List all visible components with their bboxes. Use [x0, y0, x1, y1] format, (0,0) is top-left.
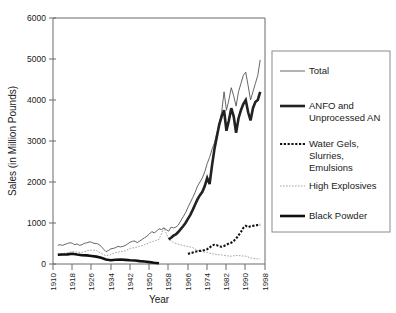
chart-legend: Total ANFO and Unprocessed AN Water Gels… — [272, 51, 390, 232]
y-tick-4000: 4000 — [27, 95, 46, 105]
legend-label-black-powder: Black Powder — [309, 210, 367, 221]
x-axis-ticks: 1910 1918 1926 1934 1942 1950 1958 1966 … — [49, 264, 270, 291]
series-layer — [58, 60, 260, 263]
legend-label-high-explosives: High Explosives — [309, 180, 377, 191]
series-water-gels — [188, 225, 260, 254]
legend-label-water-gels-2: Slurries, — [309, 150, 344, 161]
chart-container: Sales (in Million Pounds) Year 0 1000 20… — [0, 0, 396, 313]
x-axis-label: Year — [149, 294, 170, 305]
series-black-powder — [58, 254, 159, 263]
line-chart: Sales (in Million Pounds) Year 0 1000 20… — [0, 0, 396, 313]
x-tick-1990: 1990 — [241, 272, 250, 290]
y-tick-6000: 6000 — [27, 13, 46, 23]
series-total — [58, 60, 260, 252]
x-tick-1966: 1966 — [184, 272, 193, 290]
plot-frame — [53, 18, 265, 264]
x-tick-1910: 1910 — [49, 272, 58, 290]
y-tick-3000: 3000 — [27, 136, 46, 146]
legend-label-water-gels-1: Water Gels, — [309, 138, 359, 149]
x-tick-1934: 1934 — [107, 272, 116, 290]
y-tick-5000: 5000 — [27, 54, 46, 64]
x-tick-1926: 1926 — [87, 272, 96, 290]
y-tick-0: 0 — [41, 259, 46, 269]
x-tick-1918: 1918 — [68, 272, 77, 290]
x-tick-1974: 1974 — [203, 272, 212, 290]
legend-label-anfo-1: ANFO and — [309, 100, 354, 111]
legend-label-total: Total — [309, 65, 329, 76]
y-tick-1000: 1000 — [27, 218, 46, 228]
y-axis-label: Sales (in Million Pounds) — [7, 86, 18, 196]
x-tick-1950: 1950 — [145, 272, 154, 290]
legend-label-anfo-2: Unprocessed AN — [309, 112, 380, 123]
x-tick-1998: 1998 — [261, 272, 270, 290]
y-axis-ticks: 0 1000 2000 3000 4000 5000 6000 — [27, 13, 56, 269]
x-tick-1958: 1958 — [164, 272, 173, 290]
x-tick-1982: 1982 — [222, 272, 231, 290]
y-tick-2000: 2000 — [27, 177, 46, 187]
x-tick-1942: 1942 — [126, 272, 135, 290]
legend-label-water-gels-3: Emulsions — [309, 162, 353, 173]
